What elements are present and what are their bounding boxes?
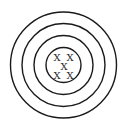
x-mark-bottom-left: X xyxy=(53,70,61,81)
x-mark-top-right: X xyxy=(66,52,74,63)
concentric-circles-diagram: X X X X X xyxy=(0,0,123,127)
x-mark-bottom-right: X xyxy=(66,70,74,81)
